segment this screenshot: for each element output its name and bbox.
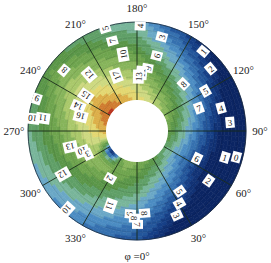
contour-label: 7 xyxy=(132,220,143,229)
tick-label-0: φ =0° xyxy=(124,250,149,262)
tick-label-180: 180° xyxy=(127,2,148,14)
contour-label: 8 xyxy=(139,208,151,218)
contour-label: 13 xyxy=(133,69,144,83)
svg-text:11: 11 xyxy=(38,112,48,123)
tick-label-60: 60° xyxy=(236,187,251,199)
svg-text:4: 4 xyxy=(136,23,146,28)
tick-label-270: 270° xyxy=(4,125,25,137)
contour-label: 11 xyxy=(35,112,50,125)
tick-label-150: 150° xyxy=(188,18,209,30)
tick-label-120: 120° xyxy=(233,64,254,76)
tick-label-330: 330° xyxy=(65,232,86,244)
chart-canvas: φ =0°30°60°90°120°150°180°210°240°270°30… xyxy=(0,0,271,263)
contour-label: 3 xyxy=(225,116,235,128)
tick-label-30: 30° xyxy=(191,232,206,244)
tick-label-210: 210° xyxy=(65,18,86,30)
svg-text:7: 7 xyxy=(132,222,142,227)
tick-label-90: 90° xyxy=(252,125,267,137)
svg-text:13: 13 xyxy=(134,71,144,81)
tick-label-300: 300° xyxy=(20,187,41,199)
polar-contour-chart: φ =0°30°60°90°120°150°180°210°240°270°30… xyxy=(0,0,271,263)
tick-label-240: 240° xyxy=(20,64,41,76)
inner-hole xyxy=(106,100,168,162)
contour-label: 4 xyxy=(135,21,146,30)
